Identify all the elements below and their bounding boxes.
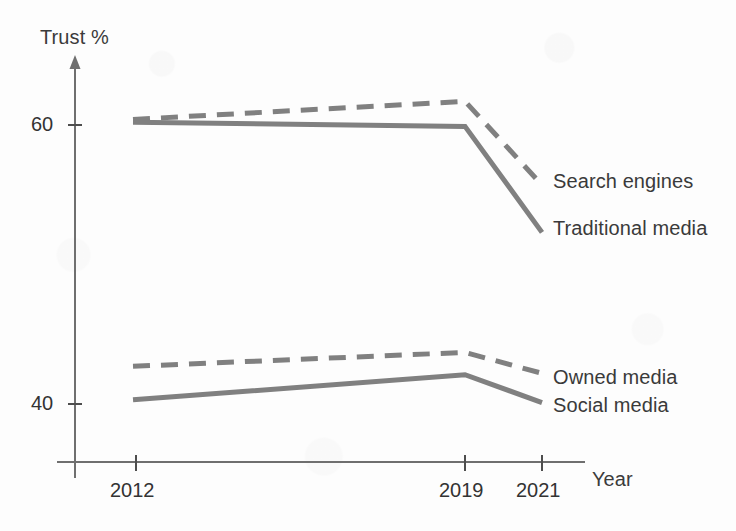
series-line-social-media (133, 375, 542, 403)
chart-container: Trust % Year 60 40 2012 2019 2021 Search… (0, 0, 736, 531)
x-tick-label-2021: 2021 (516, 479, 561, 502)
series-label-search-engines: Search engines (553, 170, 693, 193)
y-axis-arrowhead-icon (70, 55, 81, 69)
series-lines-layer (133, 101, 542, 402)
series-line-traditional-media (133, 122, 542, 232)
x-tick-label-2019: 2019 (439, 479, 484, 502)
line-chart-plot (0, 0, 736, 531)
y-axis (68, 55, 82, 478)
x-axis (57, 455, 585, 471)
y-axis-title: Trust % (40, 26, 109, 49)
x-tick-label-2012: 2012 (110, 479, 155, 502)
y-tick-label-60: 60 (31, 113, 53, 136)
series-line-owned-media (133, 352, 542, 373)
series-line-search-engines (133, 101, 542, 185)
series-label-traditional-media: Traditional media (553, 217, 707, 240)
series-label-owned-media: Owned media (553, 366, 678, 389)
series-label-social-media: Social media (553, 394, 669, 417)
y-tick-label-40: 40 (31, 392, 53, 415)
x-axis-title: Year (592, 468, 633, 491)
